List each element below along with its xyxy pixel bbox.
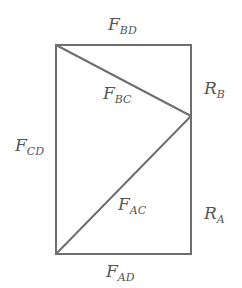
member-ac (56, 116, 191, 254)
label-sub: AC (130, 204, 146, 217)
label-sub: CD (27, 145, 44, 158)
label-main: F (103, 83, 115, 103)
truss-frame (56, 45, 191, 254)
label-main: R (204, 78, 217, 98)
label-r-a: RA (204, 205, 225, 225)
label-main: F (118, 194, 130, 214)
label-sub: B (217, 88, 225, 101)
label-f-ac: FAC (118, 196, 146, 216)
label-main: F (108, 14, 120, 34)
label-f-bd: FBD (108, 16, 137, 36)
label-sub: AD (118, 271, 135, 284)
label-main: F (106, 261, 118, 281)
label-f-ad: FAD (106, 263, 135, 283)
label-f-bc: FBC (103, 85, 132, 105)
label-main: F (15, 135, 27, 155)
label-main: R (204, 203, 217, 223)
label-sub: BD (120, 24, 137, 37)
label-f-cd: FCD (15, 137, 44, 157)
label-sub: BC (115, 93, 132, 106)
label-r-b: RB (204, 80, 225, 100)
label-sub: A (217, 213, 225, 226)
